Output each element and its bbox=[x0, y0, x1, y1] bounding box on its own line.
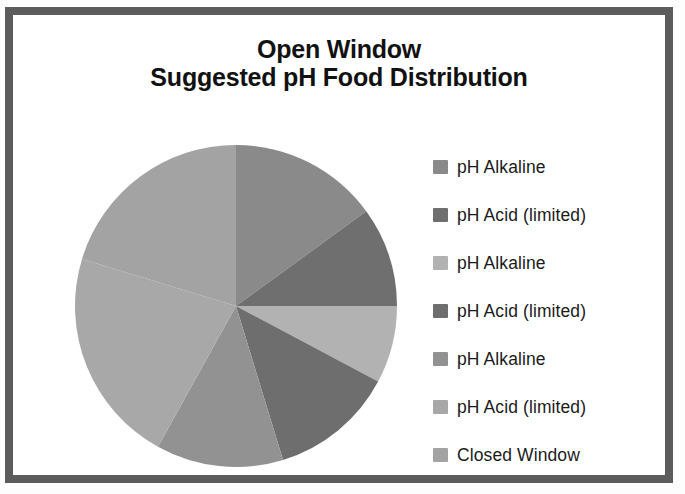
legend-item-label: pH Alkaline bbox=[457, 253, 546, 274]
pie-slice-group bbox=[75, 145, 397, 467]
chart-legend: pH AlkalinepH Acid (limited)pH Alkalinep… bbox=[433, 143, 663, 479]
legend-item: pH Acid (limited) bbox=[433, 287, 663, 335]
page-root: Distribution8sec toA 15PUBLIC Open Windo… bbox=[0, 0, 685, 494]
legend-item-label: pH Alkaline bbox=[457, 157, 546, 178]
legend-swatch-icon bbox=[433, 400, 448, 414]
legend-item-label: pH Acid (limited) bbox=[457, 205, 586, 226]
legend-swatch-icon bbox=[433, 160, 448, 174]
legend-item-label: pH Acid (limited) bbox=[457, 397, 586, 418]
chart-frame: Open Window Suggested pH Food Distributi… bbox=[5, 7, 673, 483]
chart-area: Open Window Suggested pH Food Distributi… bbox=[13, 15, 665, 475]
legend-swatch-icon bbox=[433, 208, 448, 222]
legend-item: pH Alkaline bbox=[433, 239, 663, 287]
legend-swatch-icon bbox=[433, 256, 448, 270]
legend-swatch-icon bbox=[433, 448, 448, 462]
chart-title: Open Window Suggested pH Food Distributi… bbox=[13, 35, 665, 91]
legend-swatch-icon bbox=[433, 352, 448, 366]
legend-item-label: pH Acid (limited) bbox=[457, 301, 586, 322]
chart-title-line1: Open Window bbox=[13, 35, 665, 63]
legend-item: pH Acid (limited) bbox=[433, 383, 663, 431]
pie-chart bbox=[71, 141, 401, 471]
legend-item-label: pH Alkaline bbox=[457, 349, 546, 370]
legend-swatch-icon bbox=[433, 304, 448, 318]
pie-chart-svg bbox=[71, 141, 401, 471]
chart-title-line2: Suggested pH Food Distribution bbox=[13, 63, 665, 91]
legend-item-label: Closed Window bbox=[457, 445, 580, 466]
legend-item: Closed Window bbox=[433, 431, 663, 479]
legend-item: pH Alkaline bbox=[433, 143, 663, 191]
legend-item: pH Alkaline bbox=[433, 335, 663, 383]
legend-item: pH Acid (limited) bbox=[433, 191, 663, 239]
